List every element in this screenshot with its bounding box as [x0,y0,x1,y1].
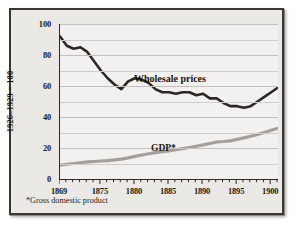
chart-footnote: *Gross domestic product [26,196,108,205]
gridline-y-10 [60,164,278,165]
gridline-y-70 [60,71,278,72]
y-tick-label-0: 0 [11,174,51,184]
y-tick-label-80: 80 [11,50,51,60]
x-tick-label-1900: 1900 [262,186,278,196]
x-tick-label-1895: 1895 [228,186,244,196]
gridlines [60,24,278,179]
plot-area [59,24,278,180]
y-tick-label-40: 40 [11,112,51,122]
gridline-y-40 [60,117,278,118]
gridline-y-30 [60,133,278,134]
gridline-y-50 [60,102,278,103]
x-axis-tickmarks [59,179,278,186]
x-tick-label-1890: 1890 [194,186,210,196]
y-tick-label-100: 100 [11,19,51,29]
x-tick-label-1880: 1880 [126,186,142,196]
y-tick-label-60: 60 [11,81,51,91]
x-tick-label-1875: 1875 [92,186,108,196]
gridline-y-90 [60,40,278,41]
series-label-gdp: GDP* [151,143,176,153]
chart-frame: 1926–1929 = 100 020406080100 18691875188… [9,8,284,215]
chart-figure: 1926–1929 = 100 020406080100 18691875188… [0,0,298,233]
gridline-y-60 [60,86,278,87]
x-tick-label-1869: 1869 [51,186,67,196]
series-label-wholesale-prices: Wholesale prices [134,73,206,84]
y-axis-ticks: 020406080100 [11,10,59,185]
gridline-y-80 [60,55,278,56]
y-tick-label-20: 20 [11,143,51,153]
x-tick-label-1885: 1885 [160,186,176,196]
gridline-y-100 [60,24,278,25]
